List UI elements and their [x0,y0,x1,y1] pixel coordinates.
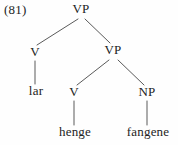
edge-vproot-v [37,19,78,45]
vp-root: VP [72,1,89,17]
vp-inner: VP [104,42,121,58]
np: NP [138,84,155,100]
leaf-henge: henge [59,124,91,140]
edge-vproot-vpinner [85,19,110,43]
v-upper: V [30,44,40,60]
leaf-fangene: fangene [127,124,170,140]
edge-vpinner-np [118,60,144,85]
leaf-lar: lar [29,83,43,99]
edge-vpinner-v [77,60,109,85]
v-lower: V [69,84,79,100]
syntax-tree-figure: (81) VPVVPVNPlarhengefangene [0,0,178,145]
